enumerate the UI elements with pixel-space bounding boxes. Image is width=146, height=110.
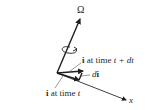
i-at-time-t-label: i at time t [46, 89, 80, 98]
i-at-time-t-vector [57, 73, 79, 80]
leader-di [81, 75, 90, 76]
x-axis-label: x [129, 96, 133, 105]
rotation-arrow-icon [62, 47, 77, 54]
di-label: di [92, 70, 99, 79]
i-at-time-t-plus-dt-label: i at time t + dt [82, 56, 134, 65]
leader-i-t-plus-dt [70, 63, 81, 71]
omega-vector [57, 19, 80, 73]
omega-label: Ω [77, 5, 84, 15]
leader-i-t [55, 76, 63, 88]
di-vector [79, 73, 82, 80]
i-at-time-t-plus-dt-vector [57, 71, 83, 73]
